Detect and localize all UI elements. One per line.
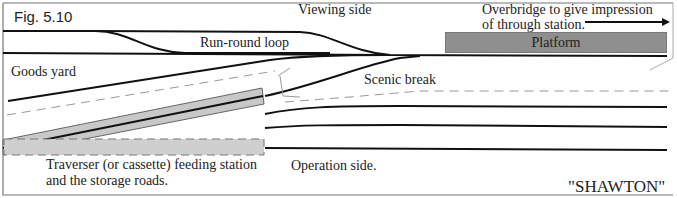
goods-yard-label: Goods yard [11, 64, 76, 79]
operation-side-label: Operation side. [291, 158, 377, 173]
layout-name: "SHAWTON" [568, 179, 665, 194]
viewing-side-label: Viewing side [298, 2, 371, 17]
overbridge-label-line1: Overbridge to give impression [482, 2, 653, 17]
platform: Platform [445, 32, 667, 53]
storage-road-3 [265, 148, 667, 150]
traverser-feeding-station [4, 139, 264, 155]
scenic-break-dashed-line-right [285, 91, 672, 102]
overbridge-label-line2: of through station. [482, 17, 585, 32]
traverser-label-line2: and the storage roads. [46, 173, 168, 188]
traverser-label-line1: Traverser (or cassette) feeding station [46, 157, 257, 172]
figure-number: Fig. 5.10 [14, 9, 72, 24]
arrow-right-icon [662, 18, 670, 26]
scenic-break-label: Scenic break [364, 72, 436, 87]
platform-label: Platform [446, 33, 666, 53]
storage-road-2 [265, 125, 667, 128]
run-round-loop-label: Run-round loop [200, 35, 289, 50]
storage-road-1 [265, 106, 667, 114]
